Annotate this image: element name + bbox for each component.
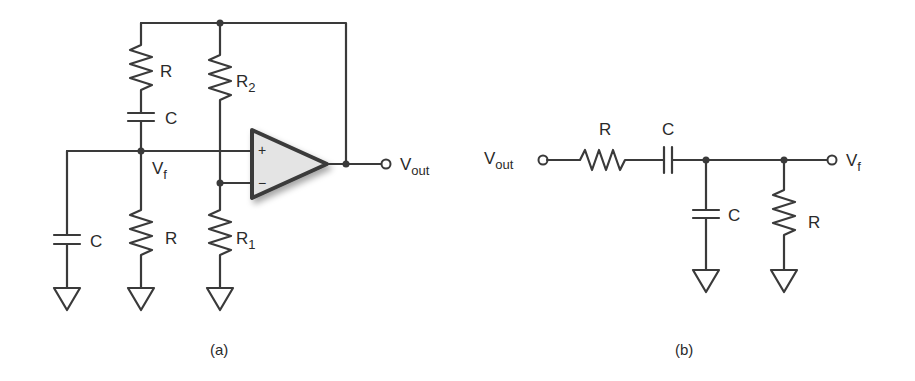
- caption-b: (b): [675, 341, 693, 358]
- label-r-series-b: R: [599, 120, 611, 139]
- circuit-a: R C R2 Vf C R R1 + − Vout: [54, 20, 430, 359]
- wien-bridge-oscillator-figure: R C R2 Vf C R R1 + − Vout: [0, 0, 915, 381]
- resistor-r1: [209, 183, 231, 288]
- label-r2: R2: [236, 72, 256, 95]
- label-c-shunt: C: [90, 232, 102, 251]
- capacitor-c-shunt-b: [693, 160, 719, 270]
- caption-a: (a): [210, 341, 228, 358]
- capacitor-c-series: [128, 113, 154, 121]
- output-terminal: [382, 160, 391, 169]
- label-r-shunt-b: R: [808, 213, 820, 232]
- capacitor-c-series-b: [664, 147, 672, 173]
- resistor-r-shunt-b: [773, 160, 795, 270]
- resistor-r-series-b: [547, 150, 664, 170]
- label-vf: Vf: [152, 159, 167, 182]
- label-vout: Vout: [400, 155, 430, 178]
- resistor-r-shunt: [130, 151, 152, 288]
- feedback-wire: [141, 23, 346, 164]
- resistor-r2: [209, 23, 231, 183]
- label-vf-b: Vf: [846, 151, 861, 174]
- label-c-series-b: C: [662, 120, 674, 139]
- ground-icon: [128, 288, 154, 310]
- output-terminal-b: [828, 156, 837, 165]
- ground-icon: [54, 288, 80, 310]
- label-c-series: C: [165, 109, 177, 128]
- label-c-shunt-b: C: [728, 206, 740, 225]
- label-r1: R1: [236, 229, 256, 252]
- ground-icon: [693, 270, 719, 292]
- circuit-b: Vout R C C R Vf (b): [484, 120, 861, 358]
- ground-icon: [207, 288, 233, 310]
- label-vout-b: Vout: [484, 149, 514, 172]
- junction-output: [343, 161, 350, 168]
- resistor-r-series: [130, 23, 152, 113]
- capacitor-c-shunt: [54, 151, 80, 288]
- label-r-shunt: R: [165, 229, 177, 248]
- opamp-plus-label: +: [258, 142, 266, 158]
- label-r-series: R: [160, 62, 172, 81]
- ground-icon: [771, 270, 797, 292]
- opamp-minus-label: −: [258, 175, 266, 191]
